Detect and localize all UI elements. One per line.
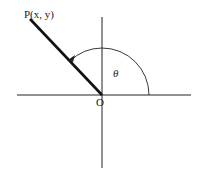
- angle-label: θ: [113, 67, 119, 79]
- angle-diagram: P(x, y) O θ: [0, 0, 204, 174]
- point-label: P(x, y): [24, 8, 54, 21]
- angle-arc: [70, 48, 149, 95]
- origin-label: O: [96, 96, 104, 108]
- terminal-ray: [30, 19, 102, 95]
